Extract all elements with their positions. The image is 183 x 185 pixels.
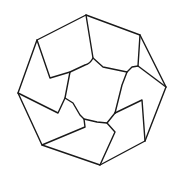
partition-bottom <box>100 113 115 165</box>
outer-octagon <box>18 15 166 165</box>
partition-center-lower <box>65 72 107 123</box>
octagon-pinwheel-diagram <box>0 0 183 185</box>
partition-top-left <box>37 15 93 78</box>
partition-left <box>18 93 65 113</box>
partition-top-right <box>93 35 140 72</box>
partition-right-lower <box>115 100 145 141</box>
partition-right-upper <box>138 66 166 87</box>
partition-right-inner <box>115 72 127 113</box>
partition-bottom-left <box>42 119 85 145</box>
